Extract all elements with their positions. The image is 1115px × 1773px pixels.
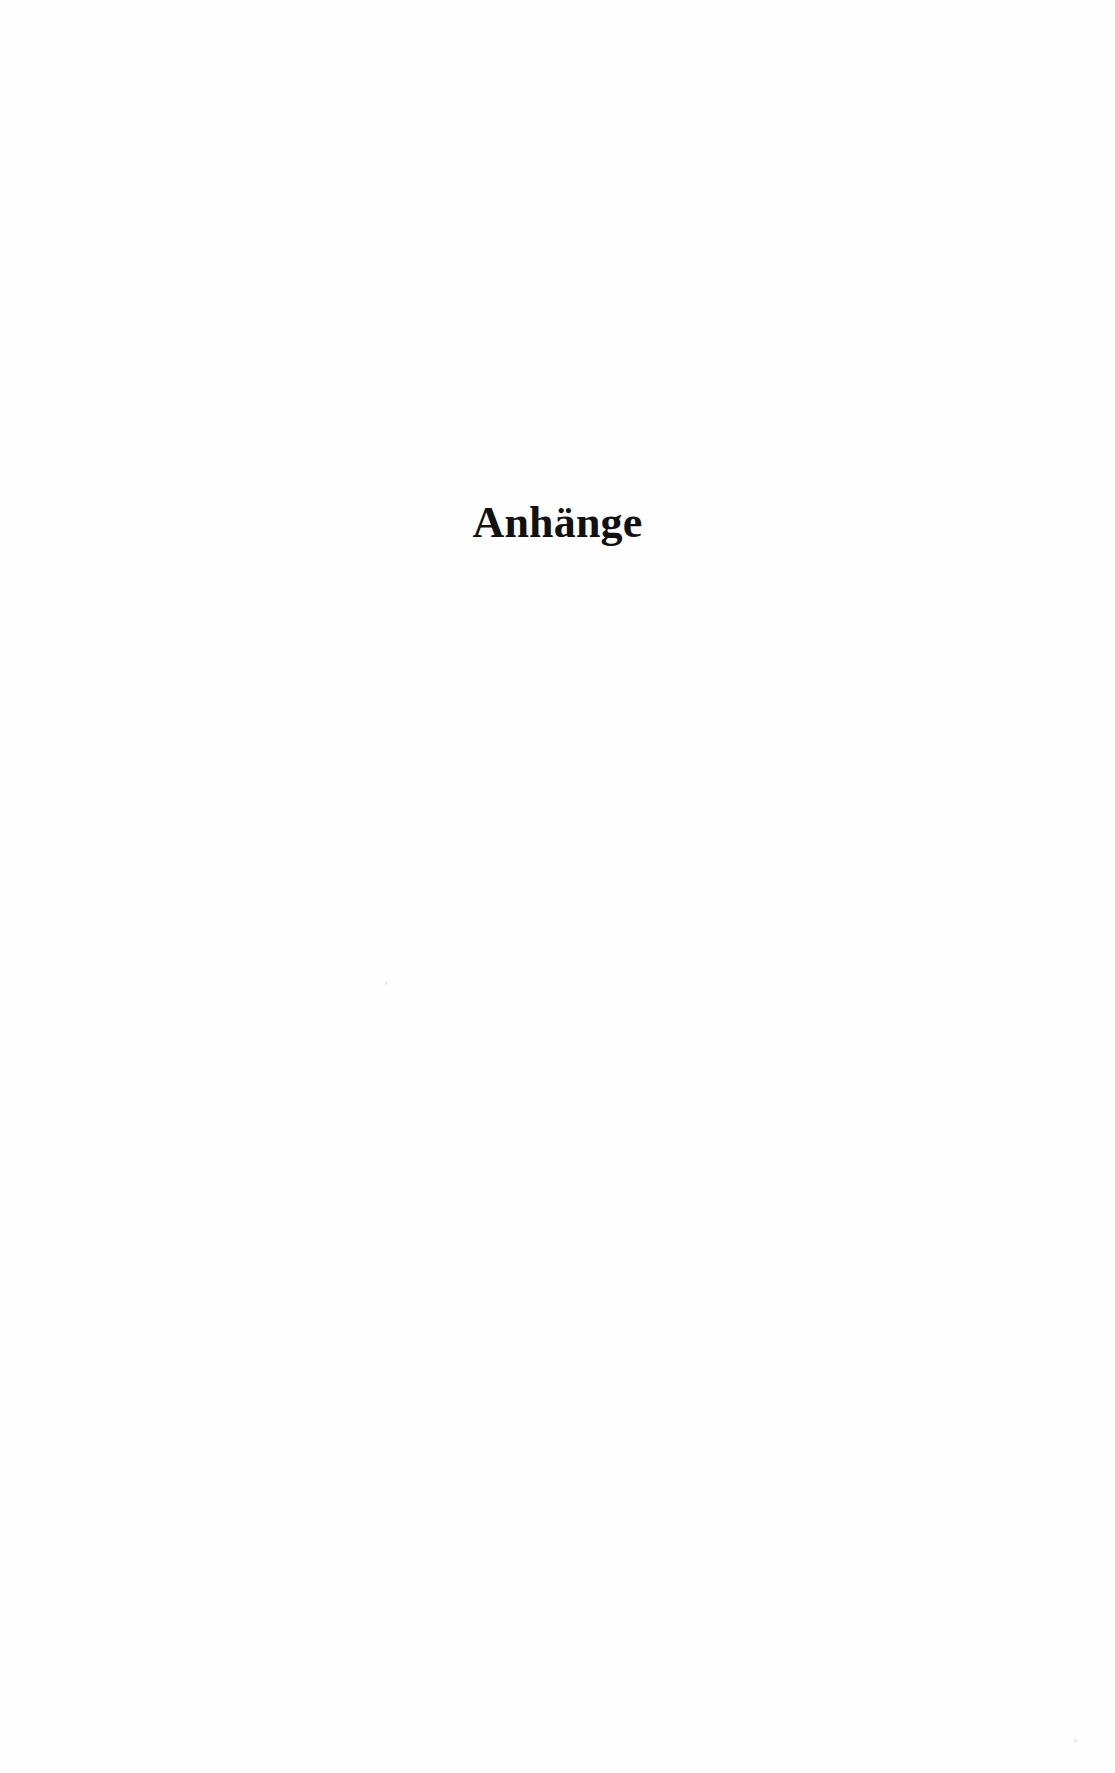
- document-page: Anhänge: [0, 0, 1115, 1773]
- scan-speck: [385, 982, 388, 985]
- section-heading: Anhänge: [0, 497, 1115, 549]
- scan-speck: [1074, 1739, 1077, 1742]
